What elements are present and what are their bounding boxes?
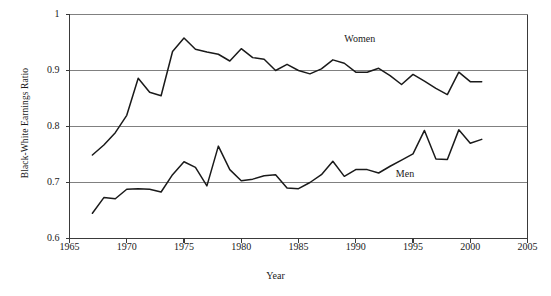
y-tick-label: 0.9 — [20, 64, 60, 75]
x-tick-label: 1965 — [45, 241, 95, 252]
series-annotation-women: Women — [344, 33, 375, 44]
y-tick-label: 0.8 — [20, 120, 60, 131]
x-axis-label: Year — [0, 270, 551, 281]
chart-figure: Black-White Earnings Ratio Year 0.60.70.… — [0, 0, 551, 296]
y-tick-label: 1 — [20, 8, 60, 19]
series-line-women — [92, 38, 481, 155]
x-tick-label: 1985 — [274, 241, 324, 252]
x-tick-label: 1980 — [216, 241, 266, 252]
x-tick-label: 1975 — [159, 241, 209, 252]
series-line-men — [92, 130, 481, 213]
x-tick-label: 1995 — [388, 241, 438, 252]
x-tick-label: 1990 — [331, 241, 381, 252]
x-tick-label: 1970 — [102, 241, 152, 252]
x-tick-label: 2005 — [503, 241, 551, 252]
x-tick-label: 2000 — [445, 241, 495, 252]
y-tick-label: 0.7 — [20, 176, 60, 187]
series-annotation-men: Men — [396, 168, 414, 179]
